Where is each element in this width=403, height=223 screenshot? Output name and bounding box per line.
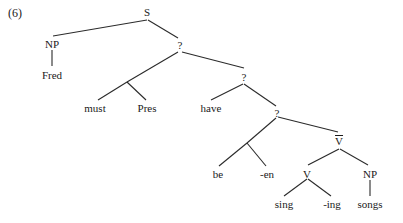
edge-junction-be xyxy=(219,143,247,166)
node-np-object: NP xyxy=(363,168,377,180)
syntax-tree-diagram: (6) S NP Fred ? must Pres ? have ? be -e… xyxy=(0,0,403,223)
edge-q2-have xyxy=(211,84,243,100)
node-sing: sing xyxy=(275,198,293,210)
node-en: -en xyxy=(260,168,274,180)
v-bar-label: V xyxy=(335,135,343,147)
edge-s-q1 xyxy=(148,20,178,38)
example-number: (6) xyxy=(8,7,22,20)
edge-v-ing xyxy=(308,179,331,196)
edge-q2-q3 xyxy=(244,84,276,106)
node-unknown-1: ? xyxy=(178,39,183,51)
node-have: have xyxy=(201,102,222,114)
node-be: be xyxy=(213,168,223,180)
node-s: S xyxy=(144,6,150,18)
edge-q3-been xyxy=(247,118,276,143)
edge-q3-vbar xyxy=(278,117,338,132)
node-songs: songs xyxy=(357,198,382,210)
edge-junction-pres xyxy=(127,82,146,100)
node-np-subject: NP xyxy=(45,38,59,50)
node-fred: Fred xyxy=(42,69,62,81)
edge-vbar-v xyxy=(308,149,339,165)
node-pres: Pres xyxy=(138,102,157,114)
edge-q1-q2 xyxy=(182,52,244,68)
edge-junction-en xyxy=(247,143,266,166)
edge-vbar-np xyxy=(340,149,368,165)
edge-s-np xyxy=(53,20,147,36)
edge-q1-mustpres xyxy=(127,52,178,82)
node-v: V xyxy=(303,168,311,180)
edge-v-sing xyxy=(284,179,307,196)
node-unknown-3: ? xyxy=(275,107,280,119)
edge-junction-must xyxy=(98,82,127,100)
node-must: must xyxy=(84,102,105,114)
node-unknown-2: ? xyxy=(242,71,247,83)
node-ing: -ing xyxy=(323,198,341,210)
node-v-bar: V xyxy=(335,135,343,147)
